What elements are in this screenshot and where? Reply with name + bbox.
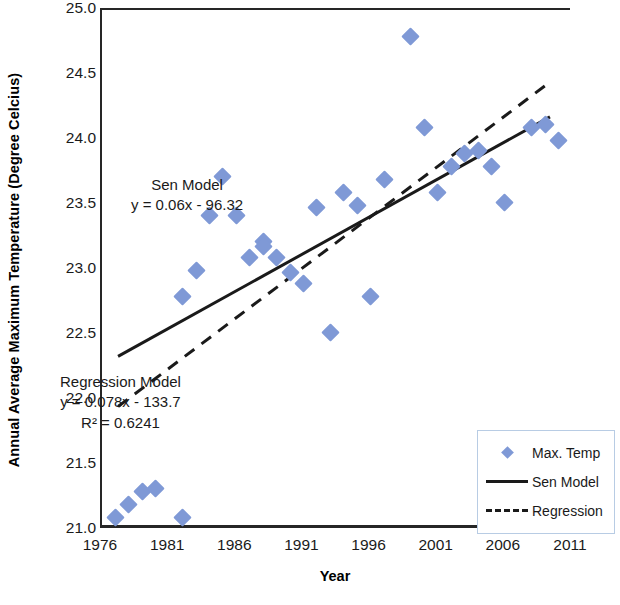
x-axis-tick-label: 1991 bbox=[266, 536, 336, 554]
y-axis-tick-labels: 21.021.522.022.523.023.524.024.525.0 bbox=[30, 0, 96, 605]
y-axis-title-text: Annual Average Maximum Temperature (Degr… bbox=[6, 73, 22, 468]
regression-annotation-r-squared: R² = 0.6241 bbox=[60, 413, 181, 433]
y-axis-tick-label: 23.0 bbox=[34, 259, 96, 277]
y-axis-tick-label: 21.0 bbox=[34, 519, 96, 537]
scatter-chart: Annual Average Maximum Temperature (Degr… bbox=[0, 0, 620, 605]
x-axis-tick-label: 2006 bbox=[468, 536, 538, 554]
legend-item-regression: Regression bbox=[482, 496, 610, 525]
x-axis-tick-label: 1976 bbox=[65, 536, 135, 554]
y-axis-tick-label: 23.5 bbox=[34, 194, 96, 212]
y-axis-tick-label: 21.5 bbox=[34, 454, 96, 472]
regression-model-annotation: Regression Model y = 0.078x - 133.7 R² =… bbox=[60, 372, 181, 433]
y-axis-title: Annual Average Maximum Temperature (Degr… bbox=[0, 0, 28, 540]
legend-label-max-temp: Max. Temp bbox=[532, 445, 600, 461]
x-axis-title: Year bbox=[100, 568, 570, 584]
dashed-line-icon bbox=[482, 496, 532, 525]
regression-line bbox=[118, 82, 550, 406]
regression-annotation-equation: y = 0.078x - 133.7 bbox=[60, 392, 181, 412]
solid-line-icon bbox=[482, 467, 532, 496]
sen-annotation-title: Sen Model bbox=[131, 175, 243, 195]
y-axis-tick-label: 24.0 bbox=[34, 129, 96, 147]
y-axis-tick-label: 25.0 bbox=[34, 0, 96, 17]
y-axis-tick-label: 24.5 bbox=[34, 64, 96, 82]
x-axis-tick-label: 1996 bbox=[334, 536, 404, 554]
x-axis-tick-label: 2001 bbox=[401, 536, 471, 554]
regression-annotation-title: Regression Model bbox=[60, 372, 181, 392]
chart-legend: Max. Temp Sen Model Regression bbox=[477, 430, 615, 534]
legend-item-sen-model: Sen Model bbox=[482, 467, 610, 496]
legend-label-sen-model: Sen Model bbox=[532, 474, 599, 490]
sen-annotation-equation: y = 0.06x - 96.32 bbox=[131, 195, 243, 215]
x-axis-tick-label: 1986 bbox=[199, 536, 269, 554]
x-axis-tick-label: 2011 bbox=[535, 536, 605, 554]
x-axis-tick-label: 1981 bbox=[132, 536, 202, 554]
x-axis-tick-labels: 19761981198619911996200120062011 bbox=[0, 536, 620, 562]
legend-label-regression: Regression bbox=[532, 503, 603, 519]
y-axis-tick-label: 22.5 bbox=[34, 324, 96, 342]
diamond-marker-icon bbox=[482, 438, 532, 467]
legend-item-max-temp: Max. Temp bbox=[482, 438, 610, 467]
sen-model-annotation: Sen Model y = 0.06x - 96.32 bbox=[131, 175, 243, 216]
